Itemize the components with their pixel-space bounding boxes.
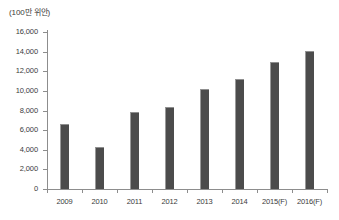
y-tick-mark [43,71,47,72]
x-tick-label: 2010 [82,197,117,206]
x-tick-mark [257,189,258,193]
y-tick-label: 6,000 [20,125,38,134]
x-tick-mark [117,189,118,193]
y-tick-mark [43,91,47,92]
x-tick-label: 2012 [152,197,187,206]
y-tick-label: 16,000 [16,27,38,36]
y-tick-label: 4,000 [20,145,38,154]
bar [305,51,314,189]
bar [60,124,69,189]
y-tick-mark [43,52,47,53]
bar [95,147,104,189]
y-tick-mark [43,32,47,33]
bar [130,112,139,189]
y-tick-label: 0 [34,184,38,193]
x-tick-label: 2009 [47,197,82,206]
x-tick-mark [82,189,83,193]
x-tick-mark [47,189,48,193]
x-tick-label: 2011 [117,197,152,206]
x-tick-label: 2014 [222,197,257,206]
y-tick-mark [43,169,47,170]
x-tick-label: 2013 [187,197,222,206]
y-tick-label: 14,000 [16,47,38,56]
x-tick-mark [222,189,223,193]
x-tick-mark [152,189,153,193]
bar [165,107,174,189]
x-tick-label: 2016(F) [292,197,327,206]
x-tick-mark [327,189,328,193]
y-tick-mark [43,111,47,112]
bar [200,89,209,189]
y-tick-label: 8,000 [20,106,38,115]
x-tick-label: 2015(F) [257,197,292,206]
x-tick-mark [187,189,188,193]
y-axis-unit-label: (100만 위안) [9,6,50,17]
bar-chart: (100만 위안) 02,0004,0006,0008,00010,00012,… [0,0,339,220]
y-tick-mark [43,150,47,151]
y-tick-label: 2,000 [20,164,38,173]
y-tick-label: 12,000 [16,66,38,75]
y-tick-mark [43,130,47,131]
bar [270,62,279,189]
bar [235,79,244,189]
y-axis-line [47,30,48,190]
y-tick-label: 10,000 [16,86,38,95]
x-tick-mark [292,189,293,193]
